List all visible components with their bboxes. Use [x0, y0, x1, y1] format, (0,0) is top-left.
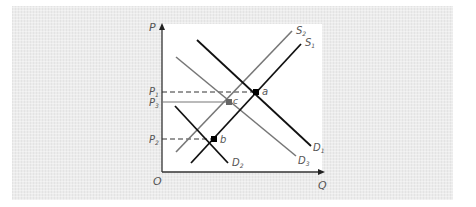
- point-a-marker: [253, 89, 259, 95]
- x-axis-label: Q: [318, 179, 327, 192]
- origin-label: O: [153, 175, 162, 188]
- s1-label: S1: [305, 37, 315, 49]
- y-axis-label: P: [149, 21, 156, 34]
- point-c-label: c: [233, 96, 238, 106]
- supply-demand-diagram: P Q O P1 P3 P2 S2 S1 D1 D3 D2 a c b: [0, 0, 476, 207]
- x-axis-arrow-icon: [318, 169, 325, 175]
- y-axis-arrow-icon: [159, 23, 165, 30]
- s2-label: S2: [296, 25, 306, 37]
- p2-label: P2: [149, 134, 159, 146]
- point-a-label: a: [262, 86, 268, 97]
- d1-label: D1: [313, 142, 325, 154]
- d3-label: D3: [298, 155, 310, 167]
- supply-curve-s2: [176, 31, 292, 152]
- d2-label: D2: [232, 157, 244, 169]
- supply-curve-s1: [191, 44, 301, 163]
- p3-label: P3: [149, 97, 159, 109]
- point-b-label: b: [220, 134, 226, 145]
- demand-curve-d3: [176, 57, 296, 156]
- point-b-marker: [211, 136, 217, 142]
- point-c-marker: [226, 99, 232, 105]
